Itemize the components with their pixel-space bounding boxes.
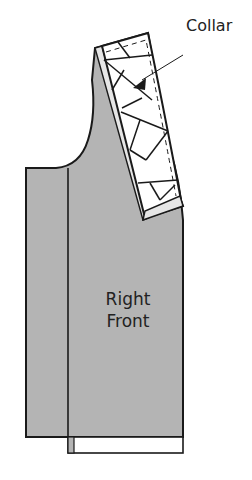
collar-label: Collar [186, 16, 232, 35]
right-front-diagram [0, 0, 252, 480]
piece-label-line2: Front [95, 310, 161, 332]
hem-band [68, 437, 183, 453]
piece-label: Right Front [95, 288, 161, 332]
hem-band-strip [68, 437, 74, 453]
piece-label-line1: Right [95, 288, 161, 310]
